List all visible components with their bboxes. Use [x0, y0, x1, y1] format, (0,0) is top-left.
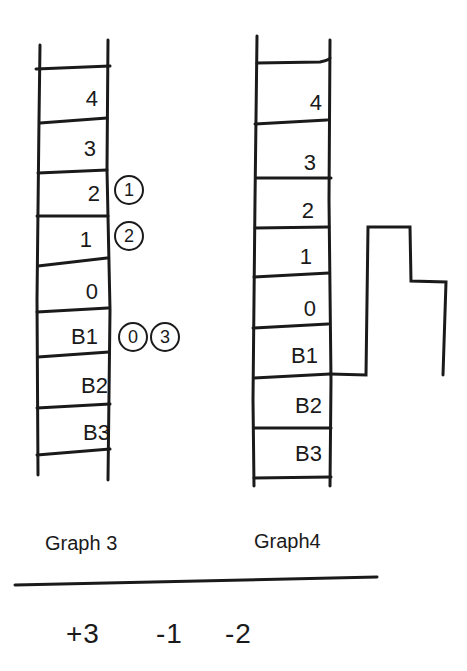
- graph4-floor-3: 3: [266, 150, 316, 176]
- graph3-floor-3: 3: [46, 136, 96, 162]
- graph3-floor-b3: B3: [60, 420, 110, 446]
- change-value-2: -1: [156, 618, 183, 650]
- graph4-caption: Graph4: [254, 530, 321, 553]
- graph4-floor-b3: B3: [272, 441, 322, 467]
- circled-marker: 1: [114, 175, 144, 205]
- graph4-floor-b2: B2: [272, 393, 322, 419]
- graph3-floor-0: 0: [48, 279, 98, 305]
- graph4-floor-0: 0: [266, 296, 316, 322]
- graph3-caption: Graph 3: [45, 532, 117, 555]
- graph3-floor-2: 2: [50, 181, 100, 207]
- graph3-floor-b2: B2: [58, 373, 108, 399]
- circled-marker: 3: [150, 322, 180, 352]
- graph4-step-path: [330, 227, 446, 375]
- graph3-floor-1: 1: [42, 227, 92, 253]
- graph3-floor-b1: B1: [48, 324, 98, 350]
- change-value-1: +3: [66, 618, 100, 650]
- circled-marker: 0: [118, 322, 148, 352]
- graph4-floor-4: 4: [272, 90, 322, 116]
- circled-marker: 2: [114, 221, 144, 251]
- graph4-floor-b1: B1: [268, 343, 318, 369]
- graph3-floor-4: 4: [48, 86, 98, 112]
- divider-line: [15, 577, 377, 585]
- change-value-3: -2: [225, 618, 252, 650]
- graph4-floor-1: 1: [262, 244, 312, 270]
- graph4-floor-2: 2: [264, 198, 314, 224]
